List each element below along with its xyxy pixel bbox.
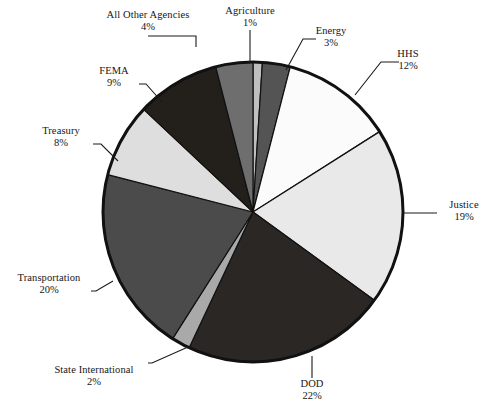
slice-label-state-international-percent: 2% [38,376,150,388]
slice-label-all-other-agencies: All Other Agencies 4% [78,9,218,33]
slice-label-energy-name: Energy [300,25,362,37]
slice-label-dod-name: DOD [282,378,342,390]
slice-label-energy-percent: 3% [300,37,362,49]
slice-label-hhs-name: HHS [381,48,435,60]
pie-chart-figure: All Other Agencies 4% Agriculture 1% Ene… [0,0,496,420]
slice-label-fema-percent: 9% [88,77,140,89]
slice-label-hhs: HHS 12% [381,48,435,72]
slice-label-energy: Energy 3% [300,25,362,49]
slice-label-hhs-percent: 12% [381,60,435,72]
slice-label-treasury: Treasury 8% [28,125,94,149]
slice-label-state-international-name: State International [38,364,150,376]
slice-label-justice-percent: 19% [437,211,491,223]
slice-label-all-other-agencies-name: All Other Agencies [78,9,218,21]
slice-label-fema-name: FEMA [88,65,140,77]
slice-label-treasury-percent: 8% [28,137,94,149]
slice-label-dod-percent: 22% [282,390,342,402]
slice-label-treasury-name: Treasury [28,125,94,137]
slice-label-fema: FEMA 9% [88,65,140,89]
slice-label-state-international: State International 2% [38,364,150,388]
slice-label-justice-name: Justice [437,199,491,211]
slice-label-agriculture-percent: 1% [205,17,295,29]
slice-label-agriculture-name: Agriculture [205,5,295,17]
slice-label-transportation-name: Transportation [4,272,94,284]
slice-label-transportation: Transportation 20% [4,272,94,296]
slice-label-transportation-percent: 20% [4,284,94,296]
leader-line-all-other-agencies [148,36,196,47]
slice-label-agriculture: Agriculture 1% [205,5,295,29]
slice-label-all-other-agencies-percent: 4% [78,21,218,33]
pie-slice-group [103,62,403,362]
leader-line-state-international [148,347,188,363]
leader-line-transportation [91,281,113,291]
slice-label-justice: Justice 19% [437,199,491,223]
slice-label-dod: DOD 22% [282,378,342,402]
